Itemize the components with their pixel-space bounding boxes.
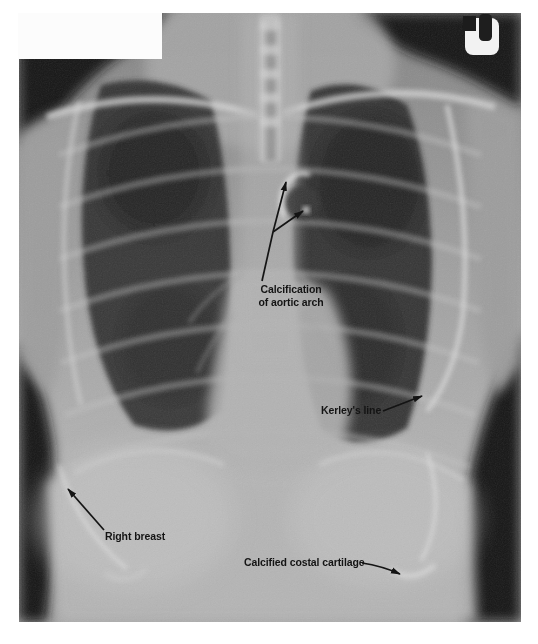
annotation-costal-cartilage: Calcified costal cartilage (244, 556, 365, 569)
chest-xray-photo (19, 13, 521, 622)
annotation-aortic-arch-line2: of aortic arch (236, 296, 346, 309)
annotation-right-breast: Right breast (105, 530, 165, 543)
chest-xray-image (19, 13, 521, 622)
annotation-aortic-arch: Calcification of aortic arch (236, 283, 346, 308)
film-marker-icon (463, 14, 499, 55)
annotation-aortic-arch-line1: Calcification (236, 283, 346, 296)
figure-page: Calcification of aortic arch Kerley's li… (0, 0, 538, 644)
label-cover-patch (18, 13, 162, 59)
film-grain (19, 13, 521, 622)
annotation-kerleys-line: Kerley's line (321, 404, 381, 417)
